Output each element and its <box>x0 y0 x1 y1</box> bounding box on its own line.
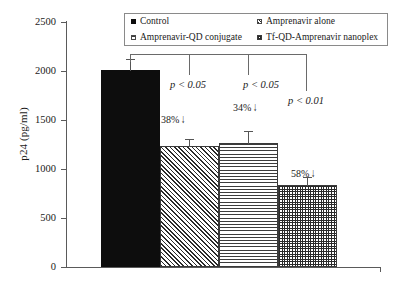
pvalue-label-tf-qd-amprenavir-nanoplex: p < 0.01 <box>288 95 324 106</box>
legend-entry-control: Control <box>131 16 257 27</box>
percent-value-amprenavir-alone: 38% <box>161 114 179 125</box>
y-tick-label-0: 0 <box>0 262 56 272</box>
y-tick-2500 <box>61 22 66 23</box>
legend-entry-amprenavir-qd-conjugate: Amprenavir-QD conjugate <box>131 32 257 43</box>
error-bar-amprenavir-alone-cap <box>185 139 194 140</box>
bar-control <box>101 70 160 267</box>
percent-label-tf-qd-amprenavir-nanoplex: 58%↓ <box>291 166 316 181</box>
significance-bracket-drop-amprenavir-alone <box>189 54 190 75</box>
x-axis-line <box>66 267 381 268</box>
y-tick-label-2500: 2500 <box>0 17 56 27</box>
y-tick-500 <box>61 218 66 219</box>
percent-label-amprenavir-alone: 38%↓ <box>161 112 186 127</box>
diagonal-hatch-square-icon <box>257 19 262 24</box>
cross-grid-square-icon <box>257 35 262 40</box>
y-tick-1500 <box>61 120 66 121</box>
percent-value-amprenavir-qd-conjugate: 34% <box>233 102 251 113</box>
y-axis-title: p24 (pg/ml) <box>17 69 29 199</box>
legend-label-amprenavir-alone: Amprenavir alone <box>266 16 335 27</box>
pvalue-label-amprenavir-alone: p < 0.05 <box>170 79 206 90</box>
chart-legend: Control Amprenavir alone Amprenavir-QD c… <box>124 13 388 46</box>
legend-entry-amprenavir-alone: Amprenavir alone <box>257 16 387 27</box>
percent-label-amprenavir-qd-conjugate: 34%↓ <box>233 100 258 115</box>
legend-label-control: Control <box>140 16 169 27</box>
y-tick-label-1500: 1500 <box>0 115 56 125</box>
error-bar-amprenavir-qd-conjugate-stem <box>248 131 249 144</box>
y-axis-line <box>66 21 67 268</box>
legend-entry-tf-qd-amprenavir-nanoplex: Tf-QD-Amprenavir nanoplex <box>257 32 387 43</box>
down-arrow-icon: ↓ <box>181 112 186 127</box>
error-bar-amprenavir-qd-conjugate-cap <box>244 131 253 132</box>
bar-amprenavir-alone <box>160 146 219 267</box>
pvalue-label-amprenavir-qd-conjugate: p < 0.05 <box>243 79 279 90</box>
y-tick-1000 <box>61 169 66 170</box>
percent-value-tf-qd-amprenavir-nanoplex: 58% <box>291 168 309 179</box>
y-tick-2000 <box>61 71 66 72</box>
y-tick-0 <box>61 267 66 268</box>
bar-amprenavir-qd-conjugate <box>219 143 278 267</box>
down-arrow-icon: ↓ <box>311 166 316 181</box>
error-bar-amprenavir-alone-stem <box>189 139 190 147</box>
significance-bracket-drop-control <box>130 54 131 62</box>
x-axis-end-tick <box>380 267 381 272</box>
significance-bracket-drop-tf-qd-amprenavir-nanoplex <box>306 54 307 91</box>
horizontal-lines-square-icon <box>131 35 136 40</box>
significance-bracket-horizontal <box>130 54 307 55</box>
legend-label-amprenavir-qd-conjugate: Amprenavir-QD conjugate <box>140 32 242 43</box>
y-tick-label-1000: 1000 <box>0 164 56 174</box>
y-tick-label-2000: 2000 <box>0 66 56 76</box>
y-tick-label-500: 500 <box>0 213 56 223</box>
bar-chart-figure: p24 (pg/ml) 2500 2000 1500 1000 500 0 p … <box>0 0 399 293</box>
solid-black-square-icon <box>131 19 136 24</box>
down-arrow-icon: ↓ <box>253 100 258 115</box>
significance-bracket-drop-amprenavir-qd-conjugate <box>248 54 249 75</box>
legend-label-tf-qd-amprenavir-nanoplex: Tf-QD-Amprenavir nanoplex <box>266 32 378 43</box>
bar-tf-qd-amprenavir-nanoplex <box>278 185 337 267</box>
